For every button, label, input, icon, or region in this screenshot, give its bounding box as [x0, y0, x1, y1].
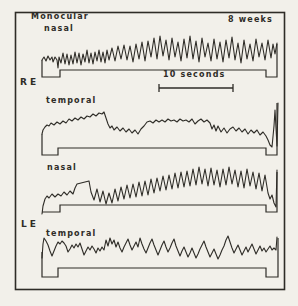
- condition-direction-label: nasal: [44, 24, 74, 33]
- trace-label-le-nasal: nasal: [47, 163, 77, 172]
- traces-svg: [0, 0, 298, 306]
- figure-panel: Monocular nasal 8 weeks RE 10 seconds te…: [0, 0, 298, 306]
- trace-label-le-temporal: temporal: [46, 229, 97, 238]
- trace-re-nasal: [42, 36, 277, 68]
- condition-label: Monocular: [31, 12, 89, 21]
- trace-le-nasal: [42, 167, 277, 214]
- age-label: 8 weeks: [228, 15, 273, 24]
- stimulus-marker-re-temporal: [42, 103, 277, 155]
- trace-re-temporal: [42, 103, 278, 147]
- eye-label-le: LE: [21, 220, 39, 229]
- trace-le-temporal: [42, 236, 277, 259]
- eye-label-re: RE: [20, 78, 39, 87]
- scalebar-label: 10 seconds: [163, 70, 226, 79]
- trace-label-re-temporal: temporal: [46, 96, 97, 105]
- stimulus-marker-le-temporal: [42, 238, 278, 277]
